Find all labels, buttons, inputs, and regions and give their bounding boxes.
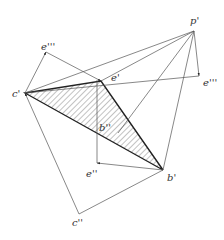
label-e-triple-right: e''' bbox=[203, 77, 217, 88]
label-e-prime: e' bbox=[111, 72, 120, 83]
hatched-triangle bbox=[25, 81, 163, 170]
label-c-double: c'' bbox=[72, 217, 83, 228]
label-e-triple-left: e''' bbox=[41, 41, 55, 52]
diagram-canvas: c' e' p' b' e''' e''' b'' e'' c'' bbox=[0, 0, 224, 240]
projection-diagram: c' e' p' b' e''' e''' b'' e'' c'' bbox=[0, 0, 224, 240]
label-c-prime: c' bbox=[12, 88, 20, 99]
arrow-p-e3-right bbox=[194, 31, 199, 76]
label-b-double: b'' bbox=[99, 122, 111, 133]
label-e-double: e'' bbox=[86, 168, 97, 179]
label-p-prime: p' bbox=[190, 15, 199, 26]
arrow-e3-left-e bbox=[46, 52, 101, 81]
arrow-c-e3-left bbox=[25, 52, 46, 93]
label-b-prime: b' bbox=[167, 172, 176, 183]
